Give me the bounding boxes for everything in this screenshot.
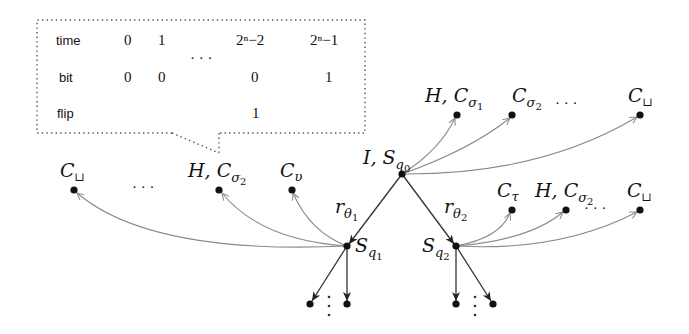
row-label-bit: bit — [59, 70, 73, 85]
cell-time-4: 2ⁿ−1 — [310, 32, 338, 48]
bit-table: time bit flip 0 1 2ⁿ−2 2ⁿ−1 · · · 0 0 0 … — [56, 32, 338, 121]
label-top-c-blank: C⊔ — [628, 84, 653, 109]
node-top-c-sigma2 — [508, 111, 515, 118]
cell-bit-1: 0 — [158, 69, 166, 85]
node-left-c-upsilon — [288, 186, 295, 193]
diagram-canvas: time bit flip 0 1 2ⁿ−2 2ⁿ−1 · · · 0 0 0 … — [0, 0, 689, 334]
node-left-c-blank — [70, 186, 77, 193]
label-left-c-blank: C⊔ — [60, 159, 85, 184]
label-left-h-c-sigma2: H, Cσ2 — [187, 159, 246, 187]
node-top-c-blank — [636, 111, 643, 118]
tree-edges — [312, 174, 491, 301]
node-s2-child-a — [452, 300, 459, 307]
cell-time-1: 1 — [158, 32, 166, 48]
node-right-h-c-sigma2 — [562, 206, 569, 213]
node-s1 — [343, 242, 350, 249]
label-top-c-sigma2: Cσ2 — [512, 84, 542, 112]
node-s1-child-b — [343, 300, 350, 307]
node-right-c-tau — [508, 206, 515, 213]
s1-config-arcs — [77, 193, 347, 247]
node-top-c-sigma1 — [453, 111, 460, 118]
s2-config-arcs — [456, 212, 637, 247]
node-right-c-blank — [636, 206, 643, 213]
edge-label-r-theta1: rθ1 — [335, 195, 358, 223]
node-s2-child-b — [489, 300, 496, 307]
row-label-time: time — [56, 33, 81, 48]
root-config-arcs — [402, 117, 637, 174]
node-labels: I, Sq0 Sq1 Sq2 H, Cσ1 Cσ2 · · · C⊔ C⊔ · … — [60, 84, 653, 262]
ellipsis-right: · · · — [584, 200, 607, 216]
cell-bit-4: 1 — [325, 69, 333, 85]
label-root: I, Sq0 — [362, 146, 410, 174]
edge-label-r-theta2: rθ2 — [444, 195, 467, 223]
table-ellipsis: · · · — [190, 50, 213, 66]
label-right-c-tau: Cτ — [497, 179, 520, 204]
tree-diagram: time bit flip 0 1 2ⁿ−2 2ⁿ−1 · · · 0 0 0 … — [0, 0, 689, 334]
label-s1: Sq1 — [355, 234, 383, 262]
ellipsis-left: · · · — [132, 179, 155, 195]
cell-bit-0: 0 — [124, 69, 132, 85]
label-s2: Sq2 — [422, 234, 450, 262]
tree-nodes — [70, 111, 643, 307]
label-top-c-sigma1: H, Cσ1 — [424, 84, 483, 112]
node-s1-child-a — [306, 300, 313, 307]
ellipsis-top: · · · — [555, 95, 578, 111]
label-right-c-blank: C⊔ — [627, 179, 652, 204]
cell-time-3: 2ⁿ−2 — [236, 32, 264, 48]
node-s2 — [452, 242, 459, 249]
node-left-h-c-sigma2 — [215, 186, 222, 193]
cell-bit-3: 0 — [251, 69, 259, 85]
cell-flip-3: 1 — [252, 105, 260, 121]
row-label-flip: flip — [57, 106, 74, 121]
label-left-c-upsilon: Cυ — [280, 159, 303, 184]
cell-time-0: 0 — [124, 32, 132, 48]
